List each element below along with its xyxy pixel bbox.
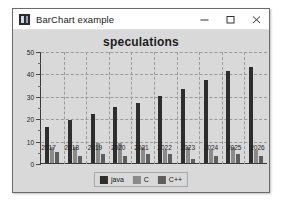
bar-java — [68, 120, 72, 163]
legend-swatch — [158, 176, 166, 184]
bar-cpp — [146, 154, 150, 163]
legend-swatch — [133, 176, 141, 184]
x-tick-label: 2025 — [227, 144, 241, 151]
bar-cpp — [78, 156, 82, 163]
x-tick-label: 2023 — [181, 144, 195, 151]
legend-label: C++ — [169, 176, 182, 183]
bar-java — [91, 114, 95, 163]
barchart-window[interactable]: BarChart example speculations 0102030405… — [12, 8, 270, 193]
bar-java — [113, 107, 117, 163]
legend-label: C — [144, 176, 149, 183]
x-tick-label: 2021 — [134, 144, 148, 151]
bar-cpp — [214, 156, 218, 163]
bar-cpp — [236, 154, 240, 163]
y-tick-label: 30 — [27, 93, 34, 100]
close-button[interactable] — [243, 9, 269, 29]
x-tick-label: 2022 — [157, 144, 171, 151]
legend-label: java — [111, 176, 124, 183]
window-titlebar[interactable]: BarChart example — [13, 9, 269, 30]
x-tick-label: 2026 — [250, 144, 264, 151]
y-tick-label: 10 — [27, 138, 34, 145]
x-tick-label: 2019 — [88, 144, 102, 151]
legend-item-java[interactable]: java — [100, 176, 124, 184]
x-tick-label: 2020 — [111, 144, 125, 151]
x-tick-label: 2024 — [204, 144, 218, 151]
bar-cpp — [101, 154, 105, 163]
y-tick-label: 50 — [27, 49, 34, 56]
maximize-button[interactable] — [217, 9, 243, 29]
x-tick-label: 2018 — [65, 144, 79, 151]
window-controls — [191, 9, 269, 29]
bar-cpp — [191, 159, 195, 163]
chart-legend: javaCC++ — [94, 172, 188, 187]
app-window-icon — [19, 14, 30, 25]
window-title: BarChart example — [36, 14, 114, 25]
y-tick-major — [36, 164, 41, 165]
bar-cpp — [259, 156, 263, 163]
legend-item-c[interactable]: C — [133, 176, 149, 184]
bar-cpp — [123, 156, 127, 163]
y-tick-label: 40 — [27, 71, 34, 78]
chart-panel: speculations 01020304050 201720182019202… — [13, 30, 269, 193]
legend-swatch — [100, 176, 108, 184]
x-axis-labels: 2017201820192020202120222023202420252026 — [37, 144, 269, 154]
chart-title: speculations — [13, 35, 269, 49]
y-tick-label: 0 — [30, 161, 34, 168]
y-tick-label: 20 — [27, 116, 34, 123]
legend-item-cpp[interactable]: C++ — [158, 176, 182, 184]
bar-cpp — [168, 154, 172, 163]
minimize-button[interactable] — [191, 9, 217, 29]
x-tick-label: 2017 — [41, 144, 55, 151]
